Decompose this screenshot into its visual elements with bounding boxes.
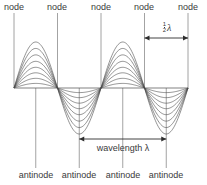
antinode-label-2: antinode — [57, 170, 101, 180]
antinode-label-1: antinode — [14, 170, 58, 180]
half-wavelength-measure-arrowhead-right — [183, 36, 188, 41]
wave-curve-lobe3-4 — [101, 61, 145, 88]
wave-curve-lobe1-2 — [14, 48, 58, 88]
wavelength-measure-arrowhead-right — [161, 137, 166, 142]
wave-curve-lobe1-3 — [14, 55, 58, 88]
half-wavelength-measure — [145, 36, 189, 41]
node-label-1: node — [0, 2, 31, 12]
wavelength-label: wavelength λ — [78, 143, 168, 153]
wave-curve-lobe3-2 — [101, 48, 145, 88]
wavelength-measure-arrowhead-left — [79, 137, 84, 142]
node-label-3: node — [84, 2, 118, 12]
wave-curve-lobe1-8 — [14, 83, 58, 88]
node-label-2: node — [40, 2, 74, 12]
antinode-label-3: antinode — [101, 170, 145, 180]
antinode-label-4: antinode — [144, 170, 188, 180]
wave-curve-lobe1-4 — [14, 61, 58, 88]
node-label-4: node — [127, 2, 161, 12]
wave-curve-lobe3-8 — [101, 83, 145, 88]
wave-curve-lobe3-3 — [101, 55, 145, 88]
half-wavelength-label: 1 2 λ — [150, 22, 184, 33]
half-wavelength-measure-arrowhead-left — [145, 36, 150, 41]
node-label-5: node — [171, 2, 205, 12]
lambda-symbol: λ — [166, 22, 171, 33]
standing-wave-figure: node node node node node antinode antino… — [0, 0, 207, 185]
